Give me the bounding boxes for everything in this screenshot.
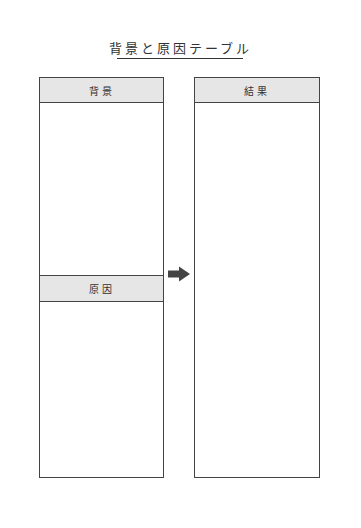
background-header: 背景: [40, 78, 163, 103]
worksheet-page: 背景と原因テーブル 背景 原因 結果: [0, 0, 361, 528]
left-column-box: 背景 原因: [39, 77, 164, 478]
cause-area[interactable]: [40, 302, 163, 477]
background-area[interactable]: [40, 103, 163, 275]
right-arrow-icon: [167, 266, 191, 282]
result-header: 結果: [195, 78, 319, 103]
right-column-box: 結果: [194, 77, 320, 478]
page-title: 背景と原因テーブル: [0, 38, 361, 57]
cause-header: 原因: [40, 275, 163, 302]
result-area[interactable]: [195, 103, 319, 477]
title-underline: [117, 58, 243, 59]
